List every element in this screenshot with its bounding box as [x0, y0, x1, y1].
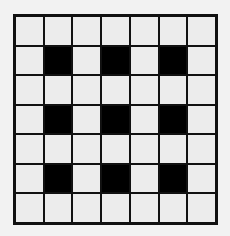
empty-cell — [73, 135, 100, 163]
empty-cell — [16, 165, 43, 193]
empty-cell — [73, 76, 100, 104]
empty-cell — [16, 47, 43, 75]
empty-cell — [102, 194, 129, 222]
empty-cell — [131, 17, 158, 45]
empty-cell — [131, 76, 158, 104]
empty-cell — [45, 76, 72, 104]
empty-cell — [188, 17, 215, 45]
filled-cell — [45, 165, 72, 193]
empty-cell — [16, 194, 43, 222]
empty-cell — [188, 135, 215, 163]
empty-cell — [16, 17, 43, 45]
empty-cell — [73, 165, 100, 193]
filled-cell — [102, 165, 129, 193]
filled-cell — [160, 106, 187, 134]
empty-cell — [45, 194, 72, 222]
empty-cell — [131, 106, 158, 134]
empty-cell — [188, 76, 215, 104]
empty-cell — [102, 17, 129, 45]
empty-cell — [102, 76, 129, 104]
empty-cell — [16, 135, 43, 163]
empty-cell — [160, 76, 187, 104]
empty-cell — [131, 135, 158, 163]
empty-cell — [73, 17, 100, 45]
empty-cell — [131, 47, 158, 75]
filled-cell — [45, 47, 72, 75]
empty-cell — [131, 165, 158, 193]
grid-diagram — [13, 14, 218, 225]
empty-cell — [188, 194, 215, 222]
empty-cell — [160, 17, 187, 45]
filled-cell — [45, 106, 72, 134]
empty-cell — [45, 17, 72, 45]
empty-cell — [45, 135, 72, 163]
empty-cell — [73, 47, 100, 75]
empty-cell — [16, 106, 43, 134]
empty-cell — [188, 47, 215, 75]
empty-cell — [73, 106, 100, 134]
filled-cell — [102, 47, 129, 75]
empty-cell — [188, 106, 215, 134]
empty-cell — [131, 194, 158, 222]
empty-cell — [160, 135, 187, 163]
filled-cell — [160, 165, 187, 193]
empty-cell — [102, 135, 129, 163]
empty-cell — [73, 194, 100, 222]
empty-cell — [16, 76, 43, 104]
filled-cell — [160, 47, 187, 75]
empty-cell — [188, 165, 215, 193]
empty-cell — [160, 194, 187, 222]
filled-cell — [102, 106, 129, 134]
